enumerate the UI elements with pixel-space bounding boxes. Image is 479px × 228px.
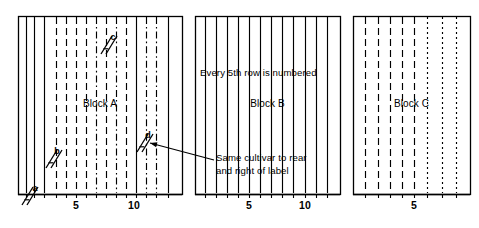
block-c-axis-label-5: 5 [411, 200, 417, 211]
marker-a-label: a [32, 183, 37, 194]
marker-b-label: b [54, 146, 60, 157]
block-a-axis-label-10: 10 [128, 200, 140, 211]
block-b-axis-label-5: 5 [246, 200, 252, 211]
marker-d-label: d [145, 130, 151, 141]
block-a-axis-label-5: 5 [73, 200, 79, 211]
marker-c-label: c [110, 32, 115, 43]
field-plot-diagram [0, 0, 479, 228]
marker-a-hatch-1 [22, 187, 33, 205]
block-b-label: Block B [250, 98, 285, 109]
annotation-cultivar-note-line1: Same cultivar to rear [216, 152, 307, 163]
annotation-cultivar-note-line2: and right of label [216, 165, 289, 176]
block-b-axis-label-10: 10 [299, 200, 311, 211]
annotation-numbering-note: Every 5th row is numbered [200, 67, 317, 78]
cultivar-leader-arrowhead [150, 142, 157, 147]
block-a-label: Block A [83, 98, 117, 109]
block-c-label: Block C [394, 98, 429, 109]
marker-hatches-layer [22, 36, 153, 205]
